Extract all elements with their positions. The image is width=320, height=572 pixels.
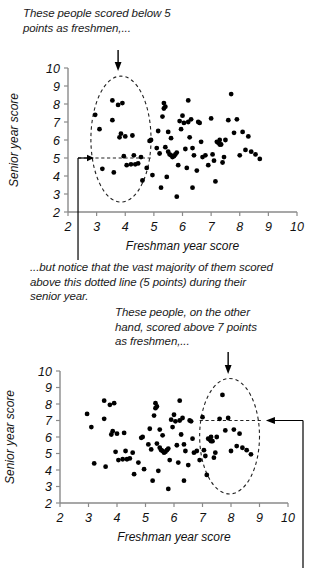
data-point xyxy=(223,428,228,433)
data-point xyxy=(222,155,227,160)
x-tick-label: 10 xyxy=(281,511,295,525)
y-tick-label: 7 xyxy=(53,116,61,130)
data-point xyxy=(226,416,231,421)
data-point xyxy=(234,444,239,449)
x-tick-label: 10 xyxy=(290,220,304,234)
data-point xyxy=(142,467,147,472)
data-point xyxy=(179,127,184,132)
data-point xyxy=(160,114,165,119)
data-point xyxy=(189,419,194,424)
data-point xyxy=(229,92,234,97)
data-point xyxy=(116,103,121,108)
annotation-middle: ...but notice that the vast majority of … xyxy=(30,260,273,304)
data-point xyxy=(173,419,178,424)
data-point xyxy=(189,117,194,122)
data-point xyxy=(179,432,184,437)
data-point xyxy=(93,112,98,117)
data-point xyxy=(123,449,128,454)
data-point xyxy=(194,449,199,454)
data-point xyxy=(177,119,182,124)
data-point xyxy=(214,435,219,440)
data-point xyxy=(131,153,136,158)
y-tick-label: 10 xyxy=(46,62,60,76)
y-axis-title: Senior year score xyxy=(3,390,17,484)
y-tick-label: 3 xyxy=(45,480,52,494)
data-point xyxy=(197,121,202,126)
data-point xyxy=(130,450,135,455)
data-point xyxy=(249,149,254,154)
x-axis-title: Freshman year score xyxy=(117,530,231,544)
data-point xyxy=(240,130,245,135)
data-point xyxy=(140,435,145,440)
data-point xyxy=(180,113,185,118)
data-point xyxy=(111,170,116,175)
x-tick-label: 8 xyxy=(236,220,243,234)
data-point xyxy=(232,130,237,135)
data-point xyxy=(169,417,174,422)
data-point xyxy=(157,151,162,156)
x-tick-label: 8 xyxy=(228,511,235,525)
scatter-chart-freshman-high: 23456789102345678910Freshman year scoreS… xyxy=(0,352,320,572)
data-point xyxy=(122,430,127,435)
data-point xyxy=(170,425,175,430)
y-tick-label: 2 xyxy=(52,206,60,220)
data-point xyxy=(166,446,171,451)
y-tick-label: 6 xyxy=(53,134,60,148)
data-point xyxy=(192,153,197,158)
data-point xyxy=(146,442,151,447)
annotation-bottom: These people, on the other hand, scored … xyxy=(115,305,257,349)
data-point xyxy=(110,429,115,434)
data-point xyxy=(176,460,181,465)
data-point xyxy=(121,154,126,159)
data-point xyxy=(182,121,187,126)
data-point xyxy=(155,441,160,446)
data-point xyxy=(219,142,224,147)
data-point xyxy=(197,458,202,463)
y-tick-label: 8 xyxy=(45,398,52,412)
data-point xyxy=(240,445,245,450)
y-tick-label: 5 xyxy=(45,447,52,461)
data-point xyxy=(102,398,107,403)
x-tick-label: 2 xyxy=(56,511,64,525)
x-axis-title: Freshman year score xyxy=(126,239,240,253)
data-point xyxy=(166,487,171,492)
data-point xyxy=(174,194,179,199)
data-point xyxy=(167,458,172,463)
data-point xyxy=(226,118,231,123)
data-point xyxy=(186,98,191,103)
data-point xyxy=(149,447,154,452)
data-point xyxy=(209,435,214,440)
data-point xyxy=(129,162,134,167)
data-point xyxy=(204,473,209,478)
data-point xyxy=(210,439,215,444)
x-tick-label: 9 xyxy=(265,220,272,234)
callout-arrow-head xyxy=(225,365,232,374)
data-point xyxy=(183,449,188,454)
highlight-ellipse xyxy=(200,378,260,494)
data-point xyxy=(123,134,128,139)
x-tick-label: 5 xyxy=(150,220,157,234)
data-point xyxy=(183,147,188,152)
data-point xyxy=(103,464,108,469)
data-point xyxy=(176,163,181,168)
x-tick-label: 3 xyxy=(93,220,100,234)
data-point xyxy=(156,129,161,134)
data-point xyxy=(115,431,120,436)
data-point xyxy=(190,185,195,190)
data-point xyxy=(164,175,169,180)
data-point xyxy=(89,425,94,430)
data-point xyxy=(147,426,152,431)
data-point xyxy=(130,133,135,138)
data-point xyxy=(112,401,117,406)
data-point xyxy=(212,158,217,163)
data-point xyxy=(187,135,192,140)
data-point xyxy=(202,448,207,453)
data-point xyxy=(159,185,164,190)
data-point xyxy=(210,152,215,157)
data-point xyxy=(212,455,217,460)
data-point xyxy=(120,101,125,106)
data-point xyxy=(110,118,115,123)
data-point xyxy=(140,178,145,183)
data-point xyxy=(113,449,118,454)
data-point xyxy=(85,412,90,417)
